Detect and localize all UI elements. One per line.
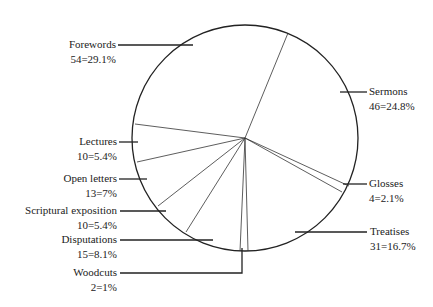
label-forewords: Forewords 54=29.1% [40, 37, 116, 67]
label-name: Forewords [40, 37, 116, 52]
label-name: Glosses [369, 176, 404, 191]
label-value: 15=8.1% [20, 247, 117, 262]
label-name: Disputations [20, 232, 117, 247]
label-name: Open letters [20, 171, 117, 186]
label-value: 13=7% [20, 186, 117, 201]
label-value: 10=5.4% [0, 218, 117, 233]
label-value: 46=24.8% [369, 99, 415, 114]
label-sermons: Sermons 46=24.8% [369, 84, 415, 114]
label-name: Treatises [370, 224, 416, 239]
label-disputations: Disputations 15=8.1% [20, 232, 117, 262]
label-woodcuts: Woodcuts 2=1% [20, 265, 117, 295]
callout-lines [118, 45, 367, 273]
slice-boundaries [135, 33, 349, 251]
label-scriptural-exposition: Scriptural exposition 10=5.4% [0, 203, 117, 233]
label-name: Lectures [40, 134, 117, 149]
label-name: Sermons [369, 84, 415, 99]
label-value: 4=2.1% [369, 191, 404, 206]
label-lectures: Lectures 10=5.4% [40, 134, 117, 164]
label-name: Woodcuts [20, 265, 117, 280]
label-open-letters: Open letters 13=7% [20, 171, 117, 201]
label-name: Scriptural exposition [0, 203, 117, 218]
label-value: 31=16.7% [370, 239, 416, 254]
label-value: 54=29.1% [40, 52, 116, 67]
label-value: 10=5.4% [40, 149, 117, 164]
label-value: 2=1% [20, 280, 117, 295]
label-glosses: Glosses 4=2.1% [369, 176, 404, 206]
label-treatises: Treatises 31=16.7% [370, 224, 416, 254]
